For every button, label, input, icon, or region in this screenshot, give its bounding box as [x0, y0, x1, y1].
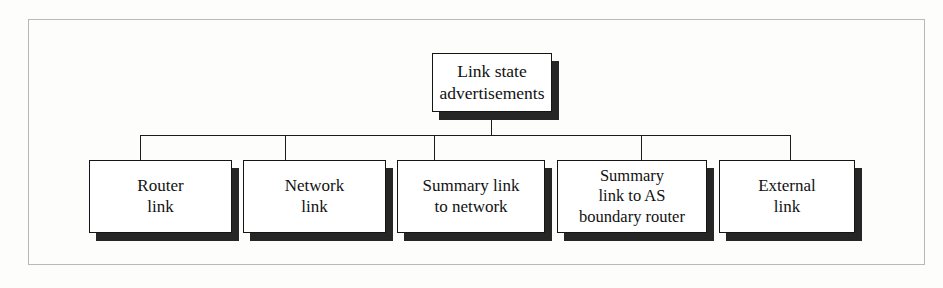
node-summary-link-to-network[interactable]: Summary link to network: [397, 160, 545, 233]
connector-drop-summary-link-to-as-boundary-router: [641, 135, 642, 161]
node-label: Network link: [281, 176, 348, 217]
connector-drop-summary-link-to-network: [434, 135, 435, 161]
node-label: Router link: [133, 176, 187, 217]
node-network-link[interactable]: Network link: [243, 160, 386, 233]
diagram-canvas: Link state advertisements Router link Ne…: [0, 0, 943, 288]
connector-horizontal-bus: [140, 135, 791, 136]
diagram-frame: Link state advertisements Router link Ne…: [28, 19, 925, 265]
node-label: Summary link to network: [419, 176, 524, 217]
node-label: External link: [754, 176, 820, 217]
node-label: Summary link to AS boundary router: [575, 166, 689, 226]
connector-drop-network-link: [285, 135, 286, 161]
node-label: Link state advertisements: [436, 61, 549, 104]
connector-drop-external-link: [790, 135, 791, 161]
node-external-link[interactable]: External link: [719, 160, 855, 233]
node-router-link[interactable]: Router link: [89, 160, 232, 233]
node-summary-link-to-as-boundary-router[interactable]: Summary link to AS boundary router: [557, 160, 707, 233]
connector-drop-router-link: [140, 135, 141, 161]
node-link-state-advertisements[interactable]: Link state advertisements: [432, 53, 552, 112]
